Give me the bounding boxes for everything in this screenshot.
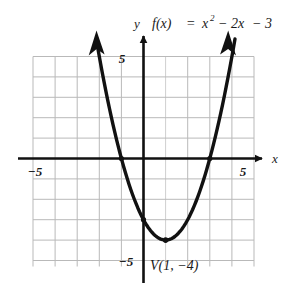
title-exponent: 2: [210, 13, 215, 23]
title-term-linear: − 2x: [218, 16, 245, 31]
vertex-point: [163, 237, 169, 243]
coordinate-plane-svg: y f(x) = x 2 − 2x − 3 x 5 −5 −5 5 V(1, −…: [0, 0, 293, 290]
title-term-x: x: [201, 16, 209, 31]
title-f-of-x: f(x): [152, 16, 172, 32]
y-intercept-point: [141, 217, 146, 222]
y-axis-label: y: [132, 16, 140, 31]
curve-arrow-left-icon: [89, 31, 105, 56]
graph-title: y f(x) = x 2 − 2x − 3: [132, 13, 272, 32]
graph-figure: y f(x) = x 2 − 2x − 3 x 5 −5 −5 5 V(1, −…: [0, 0, 293, 290]
vertex-label: V(1, −4): [150, 258, 199, 274]
title-equals: =: [186, 16, 195, 31]
x-axis-label: x: [271, 151, 278, 166]
x-intercept-right-point: [207, 156, 212, 161]
y-tick-label-5: 5: [119, 51, 126, 66]
x-tick-label-minus-5: −5: [28, 164, 43, 179]
curve-arrowheads: [89, 31, 236, 56]
y-tick-label-minus-5: −5: [119, 254, 134, 269]
title-term-constant: − 3: [252, 16, 272, 31]
x-tick-label-5: 5: [240, 164, 247, 179]
x-intercept-left-point: [119, 156, 124, 161]
